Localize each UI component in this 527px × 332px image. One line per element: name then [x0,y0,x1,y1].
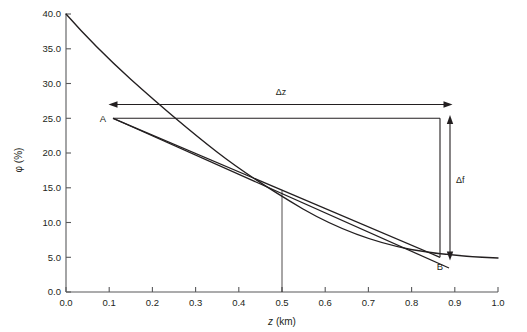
x-tick-label-0_7: 0.7 [362,297,375,308]
x-tick-label-0_2: 0.2 [146,297,159,308]
delta-z-label: Δz [276,87,287,97]
y-tick-label-40: 40.0 [43,8,62,19]
x-tick-label-0_8: 0.8 [405,297,418,308]
delta-f-label: Δf [456,175,465,185]
y-tick-label-5: 5.0 [48,252,61,263]
x-tick-label-0_0: 0.0 [59,297,72,308]
y-tick-label-20: 20.0 [43,147,62,158]
y-tick-label-0: 0.0 [48,286,61,297]
y-tick-label-10: 10.0 [43,217,62,228]
x-axis-tick-labels: 0.0 0.1 0.2 0.3 0.4 0.5 0.6 0.7 0.8 0.9 … [59,297,504,308]
x-axis-unit: (km) [273,316,296,327]
delta-f-arrowhead-bottom [447,252,453,261]
y-tick-label-30: 30.0 [43,78,62,89]
y-axis-title: φ (%) [13,148,24,173]
delta-f-annotation: Δf [447,115,465,261]
x-tick-label-0_9: 0.9 [448,297,461,308]
y-axis-ticks [66,14,71,292]
point-a-label: A [100,113,107,124]
porosity-depth-plot: 0.0 5.0 10.0 15.0 20.0 25.0 30.0 35.0 40… [0,0,527,332]
x-tick-label-0_6: 0.6 [319,297,332,308]
x-tick-label-0_3: 0.3 [189,297,202,308]
x-tick-label-0_4: 0.4 [232,297,245,308]
y-tick-label-15: 15.0 [43,182,62,193]
delta-f-arrowhead-top [447,115,453,124]
figure-container: 0.0 5.0 10.0 15.0 20.0 25.0 30.0 35.0 40… [0,0,527,332]
point-b-label: B [437,261,443,272]
y-axis-tick-labels: 0.0 5.0 10.0 15.0 20.0 25.0 30.0 35.0 40… [43,8,62,297]
x-tick-label-0_1: 0.1 [103,297,116,308]
x-axis-title: z (km) [267,316,296,327]
tangent-line-at-0_5 [113,118,449,268]
y-axis-unit: (%) [13,148,24,166]
x-tick-label-0_5: 0.5 [275,297,288,308]
x-tick-label-1_0: 1.0 [491,297,504,308]
y-tick-label-35: 35.0 [43,43,62,54]
delta-z-arrowhead-left [109,101,118,108]
delta-z-annotation: Δz [109,87,453,108]
y-tick-label-25: 25.0 [43,113,62,124]
secant-line-a-to-b [113,118,440,257]
delta-z-arrowhead-right [444,101,453,108]
